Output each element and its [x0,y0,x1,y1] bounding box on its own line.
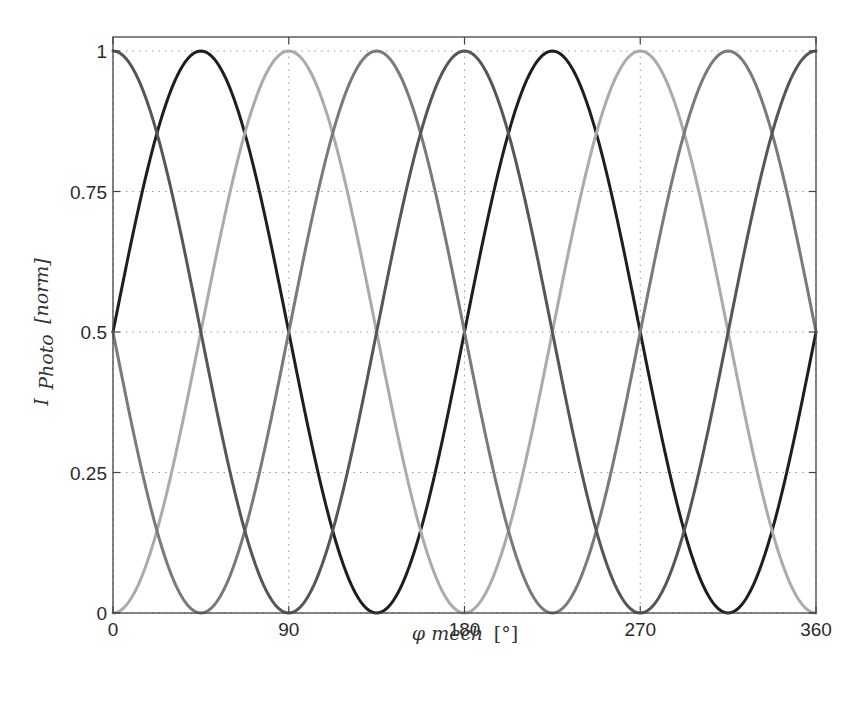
y-tick-label: 0.75 [70,182,107,203]
y-axis-subscript: Photo [35,334,57,391]
y-tick-labels: 00.250.50.751 [70,41,107,624]
y-axis-label: I Photo [norm] [30,258,57,407]
chart: 090180270360 00.250.50.751 φ mech [°] I … [0,0,863,703]
x-axis-label: φ mech [°] [412,622,518,644]
x-tick-label: 90 [278,619,299,640]
x-tick-label: 360 [800,619,832,640]
x-tick-label: 0 [108,619,119,640]
y-tick-label: 0.5 [81,322,107,343]
x-tick-label: 270 [624,619,656,640]
y-tick-label: 0.25 [70,463,107,484]
y-tick-label: 1 [96,41,107,62]
y-axis-unit: [norm] [30,258,52,324]
y-axis-main: I [30,398,52,407]
y-tick-label: 0 [96,603,107,624]
x-axis-unit: [°] [494,622,518,644]
x-axis-symbol: φ mech [412,622,483,644]
